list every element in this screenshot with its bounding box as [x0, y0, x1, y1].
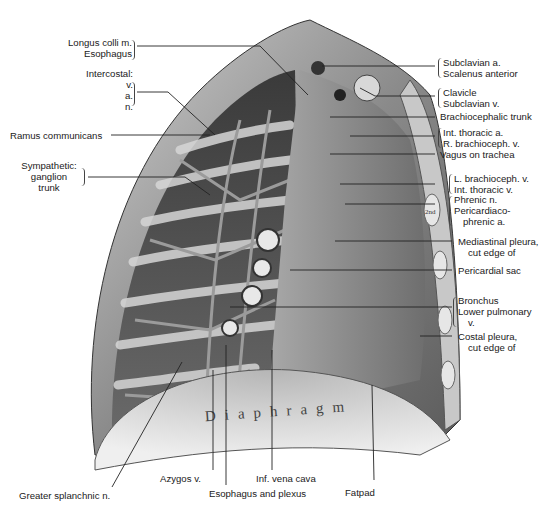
label-mediastinal-pleura: Mediastinal pleura, cut edge of — [458, 236, 539, 258]
label-phrenic: Phrenic n. Pericardiaco- phrenic a. — [454, 194, 511, 227]
label-line: Vagus on trachea — [440, 149, 515, 160]
label-line: Brachiocephalic trunk — [440, 111, 532, 122]
label-l-brachioceph: L. brachioceph. v. Int. thoracic v. — [454, 173, 529, 195]
label-line: Greater splanchnic n. — [19, 490, 110, 501]
rib-text: 2nd — [425, 208, 436, 216]
label-sympathetic: Sympathetic: ganglion trunk — [16, 160, 82, 193]
label-line: v. — [40, 79, 133, 90]
label-intercostal: Intercostal: v. a. n. — [40, 68, 133, 112]
brace — [438, 128, 442, 148]
label-line: v. — [458, 317, 532, 328]
brace — [453, 297, 457, 327]
label-line: cut edge of — [458, 247, 539, 258]
label-line: Clavicle — [443, 87, 499, 98]
label-line: Bronchus — [458, 295, 532, 306]
label-line: R. brachioceph. v. — [443, 138, 520, 149]
label-line: Intercostal: — [40, 68, 133, 79]
label-line: phrenic a. — [454, 216, 511, 227]
label-vagus: Vagus on trachea — [440, 149, 515, 160]
label-greater-splanchnic: Greater splanchnic n. — [19, 490, 110, 501]
label-line: n. — [40, 101, 133, 112]
label-line: Esophagus — [15, 48, 132, 59]
brace — [438, 58, 442, 78]
label-line: Lower pulmonary — [458, 306, 532, 317]
label-line: Ramus communicans — [10, 130, 102, 141]
label-int-thoracic-a: Int. thoracic a. R. brachioceph. v. — [443, 127, 520, 149]
label-line: Inf. vena cava — [256, 473, 316, 484]
brace — [81, 168, 85, 186]
label-line: Esophagus and plexus — [209, 488, 306, 499]
label-line: Mediastinal pleura, — [458, 236, 539, 247]
label-line: ganglion — [16, 171, 82, 182]
label-line: Azygos v. — [160, 473, 201, 484]
label-line: Sympathetic: — [16, 160, 82, 171]
label-line: Int. thoracic a. — [443, 127, 520, 138]
label-line: Scalenus anterior — [443, 68, 518, 79]
label-line: cut edge of — [458, 342, 517, 353]
label-line: L. brachioceph. v. — [454, 173, 529, 184]
label-line: Subclavian a. — [443, 57, 518, 68]
label-line: Longus colli m. — [15, 37, 132, 48]
label-ivc: Inf. vena cava — [256, 473, 316, 484]
brace — [131, 40, 135, 60]
label-line: Fatpad — [345, 487, 375, 498]
label-esophagus-plexus: Esophagus and plexus — [209, 488, 306, 499]
label-pericardial-sac: Pericardial sac — [458, 265, 521, 276]
label-azygos: Azygos v. — [160, 473, 201, 484]
label-line: Phrenic n. — [454, 194, 511, 205]
label-line: Pericardiaco- — [454, 205, 511, 216]
label-line: Costal pleura, — [458, 331, 517, 342]
label-ramus-communicans: Ramus communicans — [10, 130, 102, 141]
label-subclavian-a: Subclavian a. Scalenus anterior — [443, 57, 518, 79]
label-line: trunk — [16, 182, 82, 193]
label-brachiocephalic-trunk: Brachiocephalic trunk — [440, 111, 532, 122]
label-clavicle: Clavicle Subclavian v. — [443, 87, 499, 109]
label-line: Subclavian v. — [443, 98, 499, 109]
label-line: Pericardial sac — [458, 265, 521, 276]
label-bronchus: Bronchus Lower pulmonary v. — [458, 295, 532, 328]
brace — [438, 88, 442, 108]
brace — [131, 82, 135, 106]
label-fatpad: Fatpad — [345, 487, 375, 498]
label-longus-colli: Longus colli m. Esophagus — [15, 37, 132, 59]
label-costal-pleura: Costal pleura, cut edge of — [458, 331, 517, 353]
brace — [449, 174, 453, 194]
label-line: a. — [40, 90, 133, 101]
brace — [449, 196, 453, 226]
anatomy-figure: Diaphragm 2nd — [0, 0, 554, 509]
